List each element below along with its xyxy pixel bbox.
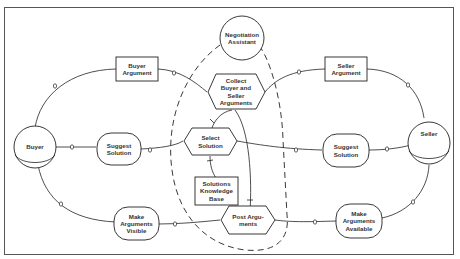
link-post-to-available bbox=[275, 220, 336, 222]
link-suggest-right-to-seller bbox=[369, 145, 411, 150]
buyer-label: Buyer bbox=[14, 140, 56, 154]
seller-argument-label: Seller Argument bbox=[325, 57, 367, 81]
tick-mark bbox=[207, 160, 213, 161]
connector-icon bbox=[173, 222, 176, 226]
connector-icon bbox=[148, 148, 151, 152]
link-visible-to-post bbox=[158, 220, 220, 224]
make-arguments-visible-label: Make Arguments Visible bbox=[114, 207, 159, 240]
connector-icon bbox=[313, 220, 316, 224]
link-collect-to-select bbox=[212, 110, 232, 128]
connector-icon bbox=[53, 84, 56, 88]
link-buyer-to-buyer-argument bbox=[35, 69, 116, 128]
connector-icon bbox=[411, 200, 414, 204]
post-arguments-label: Post Argu- ments bbox=[223, 206, 273, 234]
link-seller-argument-to-seller bbox=[367, 69, 424, 118]
suggest-solution-seller-label: Suggest Solution bbox=[323, 134, 369, 167]
select-solution-label: Select Solution bbox=[186, 128, 235, 155]
solutions-knowledge-base-label: Solutions Knowledge Base bbox=[195, 177, 238, 205]
connector-icon bbox=[294, 148, 297, 152]
link-select-to-kb bbox=[210, 156, 216, 178]
seller-label: Seller bbox=[408, 127, 450, 141]
connector-icon bbox=[297, 70, 300, 74]
negotiation-assistant-label: Negotiation Assistant bbox=[220, 28, 264, 48]
link-buyer-to-make-visible bbox=[38, 165, 116, 222]
tick-mark bbox=[210, 119, 214, 123]
link-buyer-argument-to-collect bbox=[158, 69, 207, 92]
link-suggest-to-select bbox=[141, 141, 183, 149]
connector-icon bbox=[172, 71, 175, 75]
connector-icon bbox=[59, 202, 62, 206]
link-collect-to-seller-argument bbox=[265, 69, 325, 92]
connector-icon bbox=[385, 147, 388, 151]
connector-icon bbox=[70, 145, 73, 149]
make-arguments-available-label: Make Arguments Available bbox=[336, 204, 382, 238]
connector-icon bbox=[406, 83, 409, 87]
collect-arguments-label: Collect Buyer and Seller Arguments bbox=[210, 74, 262, 109]
link-available-to-seller bbox=[382, 165, 429, 218]
suggest-solution-buyer-label: Suggest Solution bbox=[97, 133, 141, 165]
link-select-to-suggest-right bbox=[237, 141, 322, 150]
buyer-argument-label: Buyer Argument bbox=[116, 57, 158, 81]
